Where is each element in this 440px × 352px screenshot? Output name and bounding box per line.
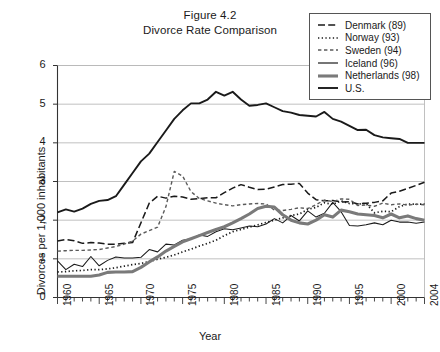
legend-item-netherlands-98[interactable]: Netherlands (98) xyxy=(317,69,424,82)
legend-label: Norway (93) xyxy=(345,32,399,43)
legend-swatch-icon xyxy=(317,45,339,55)
legend-label: Sweden (94) xyxy=(345,45,402,56)
legend-label: Netherlands (98) xyxy=(345,70,419,81)
legend-item-denmark-89[interactable]: Denmark (89) xyxy=(317,19,424,32)
x-tick-label-1970: 1970 xyxy=(145,283,156,305)
x-tick-label-2000: 2000 xyxy=(396,283,407,305)
legend-swatch-icon xyxy=(317,20,339,30)
x-tick-label-2004: 2004 xyxy=(429,283,440,305)
x-tick-label-1960: 1960 xyxy=(62,283,73,305)
series-line-netherlands-98 xyxy=(58,206,425,276)
y-tick-label-5: 5 xyxy=(26,97,46,109)
legend-label: Denmark (89) xyxy=(345,20,406,31)
legend-swatch-icon xyxy=(317,83,339,93)
y-tick-label-1: 1 xyxy=(26,251,46,263)
legend-swatch-icon xyxy=(317,71,339,81)
legend-item-iceland-96[interactable]: Iceland (96) xyxy=(317,57,424,70)
x-tick-label-1965: 1965 xyxy=(104,283,115,305)
y-tick-label-4: 4 xyxy=(26,135,46,147)
x-tick-label-1995: 1995 xyxy=(354,283,365,305)
y-tick-label-2: 2 xyxy=(26,213,46,225)
legend-label: Iceland (96) xyxy=(345,58,398,69)
x-tick-label-1980: 1980 xyxy=(229,283,240,305)
y-tick-label-0: 0 xyxy=(26,290,46,302)
legend-swatch-icon xyxy=(317,33,339,43)
series-line-sweden-94 xyxy=(58,171,425,251)
series-line-norway-93 xyxy=(58,201,425,272)
x-axis-label: Year xyxy=(120,330,300,342)
x-tick-label-1975: 1975 xyxy=(187,283,198,305)
x-tick-label-1985: 1985 xyxy=(271,283,282,305)
legend-item-sweden-94[interactable]: Sweden (94) xyxy=(317,44,424,57)
series-line-denmark-89 xyxy=(58,182,425,244)
x-tick-label-1990: 1990 xyxy=(312,283,323,305)
legend-item-u-s[interactable]: U.S. xyxy=(317,82,424,95)
y-tick-label-6: 6 xyxy=(26,58,46,70)
legend-swatch-icon xyxy=(317,58,339,68)
legend-label: U.S. xyxy=(345,83,364,94)
series-line-iceland-96 xyxy=(58,202,425,269)
series-line-u-s xyxy=(58,92,425,213)
legend-item-norway-93[interactable]: Norway (93) xyxy=(317,32,424,45)
y-tick-label-3: 3 xyxy=(26,174,46,186)
chart-legend: Denmark (89)Norway (93)Sweden (94)Icelan… xyxy=(309,13,431,100)
